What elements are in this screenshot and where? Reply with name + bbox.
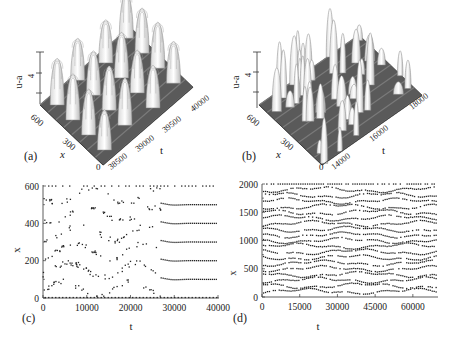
scatter-points-c: [42, 185, 217, 298]
panel-c: 0100002000030000400000200400600 x t (c): [10, 182, 230, 333]
t-tick-label: 39500: [160, 114, 183, 135]
x-axis-label: t: [129, 320, 132, 332]
y-tick-label: 0: [34, 294, 39, 304]
x-tick-label: 40000: [206, 303, 230, 313]
axes-c: 0100002000030000400000200400600: [25, 182, 230, 314]
y-tick-label: 200: [25, 256, 40, 266]
t-axis-label: t: [160, 144, 163, 156]
figure: 4 u-a 600 300 0 x 38500 39000 39500 4000…: [0, 0, 452, 340]
y-tick-label: 2000: [239, 180, 258, 190]
panel-d: 0150003000045000600000500100015002000 x …: [227, 180, 438, 333]
scatter-points-d: [263, 183, 437, 294]
y-tick-label: 1000: [239, 236, 258, 246]
x-axis-label: t: [316, 320, 319, 332]
x-tick-label: 300: [279, 136, 296, 153]
y-axis-label: x: [227, 271, 238, 276]
y-tick-label: 500: [244, 264, 259, 274]
y-tick-label: 0: [253, 293, 258, 303]
x-tick-label: 20000: [119, 303, 143, 313]
panel-label-b: (b): [242, 149, 256, 163]
x-tick-label: 10000: [75, 303, 99, 313]
y-tick-label: 600: [25, 182, 40, 192]
z-axis-a: 4 u-a: [13, 52, 44, 104]
z-tick-label: 4: [26, 73, 36, 78]
t-axis-label: t: [382, 144, 385, 156]
x-tick-label: 60000: [401, 302, 425, 312]
panel-label-a: (a): [24, 149, 37, 163]
z-tick-label: 4: [243, 72, 253, 77]
x-tick-label: 0: [96, 162, 101, 172]
x-tick-label: 15000: [288, 302, 312, 312]
x-tick-label: 30000: [162, 303, 186, 313]
x-tick-label: 0: [260, 302, 265, 312]
x-tick-label: 600: [245, 112, 262, 129]
panel-label-c: (c): [22, 311, 35, 325]
x-tick-label: 0: [319, 162, 324, 172]
panel-a: 4 u-a 600 300 0 x 38500 39000 39500 4000…: [13, 0, 211, 172]
x-axis-label: x: [59, 148, 65, 160]
x-tick-label: 45000: [363, 302, 387, 312]
panel-label-d: (d): [233, 311, 247, 325]
panel-b: 4 u-a 600 300 0 x 14000 16000 18000 t (b…: [230, 8, 430, 172]
t-tick-label: 40000: [188, 93, 211, 114]
x-tick-label: 30000: [326, 302, 350, 312]
x-axis-label: x: [275, 148, 281, 160]
z-axis-label: u-a: [230, 75, 241, 88]
y-axis-label: x: [10, 247, 22, 253]
z-axis-label: u-a: [13, 75, 24, 88]
z-axis-b: 4 u-a: [230, 52, 261, 108]
y-tick-label: 400: [25, 219, 40, 229]
y-tick-label: 1500: [239, 208, 258, 218]
x-tick-label: 600: [29, 112, 46, 129]
x-tick-label: 0: [41, 303, 46, 313]
